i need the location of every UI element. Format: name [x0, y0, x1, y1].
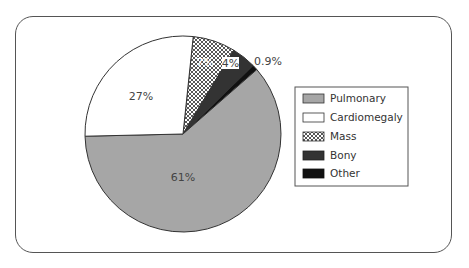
- swatch-other: [303, 169, 324, 178]
- legend: Pulmonary Cardiomegaly Mass Bony Other: [295, 87, 408, 186]
- legend-label-cardiomegaly: Cardiomegaly: [330, 111, 403, 123]
- label-mass: 7%: [196, 56, 213, 69]
- pie-chart: 61% 27% 7% 4% 0.9% Pulmonary Cardiomegal…: [0, 0, 469, 268]
- legend-item-cardiomegaly: Cardiomegaly: [303, 111, 403, 123]
- legend-label-pulmonary: Pulmonary: [330, 92, 386, 104]
- legend-label-other: Other: [330, 167, 360, 179]
- legend-item-bony: Bony: [303, 149, 357, 161]
- legend-item-other: Other: [303, 167, 360, 179]
- swatch-pulmonary: [303, 94, 324, 103]
- legend-label-mass: Mass: [330, 130, 356, 142]
- label-cardiomegaly: 27%: [129, 90, 153, 103]
- pie-slices: [85, 36, 281, 232]
- swatch-cardiomegaly: [303, 113, 324, 122]
- swatch-bony: [303, 151, 324, 160]
- legend-item-pulmonary: Pulmonary: [303, 92, 386, 104]
- slice-cardiomegaly: [85, 36, 193, 136]
- label-bony: 4%: [222, 57, 239, 70]
- label-other: 0.9%: [254, 55, 282, 68]
- label-pulmonary: 61%: [171, 171, 195, 184]
- legend-label-bony: Bony: [330, 149, 357, 161]
- swatch-mass: [303, 132, 324, 141]
- legend-item-mass: Mass: [303, 130, 356, 142]
